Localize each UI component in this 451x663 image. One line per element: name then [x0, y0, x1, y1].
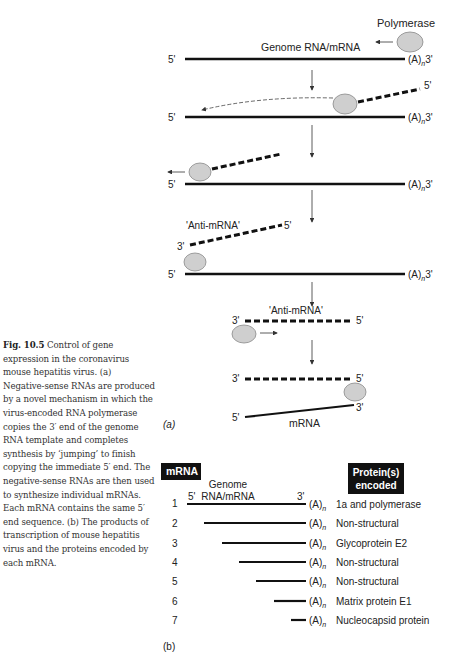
mrna-strand — [245, 405, 354, 417]
diagram: Polymerase Genome RNA/mRNA 5' (A)n3' 5' … — [0, 0, 451, 663]
five-prime-label: 5' — [168, 54, 176, 65]
mrna-header: mRNA — [166, 465, 199, 477]
five-prime-label: 5' — [356, 315, 364, 326]
protein-label: Matrix protein E1 — [336, 596, 412, 607]
mrna-row-7: 7 (A)n Nucleocapsid protein — [172, 615, 429, 628]
row-number: 7 — [172, 615, 178, 626]
polymerase-icon — [232, 325, 256, 343]
panel-b-label: (b) — [163, 641, 175, 652]
anti-mrna-label: 'Anti-mRNA' — [186, 220, 240, 231]
polymerase-icon — [184, 253, 206, 271]
jump-arrow-icon — [202, 98, 333, 110]
genome-label-line1: Genome — [209, 479, 248, 490]
protein-label: Non-structural — [336, 557, 399, 568]
three-prime-label: 3' — [297, 491, 305, 502]
polya-label: (A)n — [309, 499, 326, 512]
step-4-anti-mrna: 'Anti-mRNA' 5' 3' 5' (A)n3' — [168, 220, 433, 282]
step-3-jump: 5' (A)n3' — [168, 154, 433, 192]
polya-label: (A)n3' — [408, 112, 433, 125]
three-prime-label: 3' — [177, 241, 185, 252]
nascent-strand — [212, 154, 281, 169]
mrna-row-4: 4 (A)n Non-structural — [172, 557, 399, 570]
polya-label: (A)n — [309, 538, 326, 551]
row-number: 5 — [172, 576, 178, 587]
three-prime-label: 3' — [232, 315, 240, 326]
polya-label: (A)n — [309, 596, 326, 609]
polymerase-icon — [333, 94, 357, 114]
row-number: 6 — [172, 596, 178, 607]
five-prime-label: 5' — [168, 112, 176, 123]
three-prime-label: 3' — [356, 402, 364, 413]
genome-label: Genome RNA/mRNA — [261, 41, 360, 53]
mrna-row-6: 6 (A)n Matrix protein E1 — [172, 596, 412, 609]
five-prime-label: 5' — [424, 80, 432, 91]
polya-label: (A)n3' — [408, 269, 433, 282]
five-prime-label: 5' — [232, 412, 240, 423]
nascent-strand — [358, 89, 420, 102]
polya-label: (A)n3' — [408, 179, 433, 192]
protein-label: Nucleocapsid protein — [336, 615, 429, 626]
panel-a-label: (a) — [163, 419, 175, 430]
polymerase-label: Polymerase — [377, 17, 435, 29]
protein-label: 1a and polymerase — [336, 499, 421, 510]
row-number: 1 — [172, 498, 178, 509]
step-2-initiation: 5' 5' (A)n3' — [168, 80, 433, 125]
mrna-row-5: 5 (A)n Non-structural — [172, 576, 399, 589]
polya-label: (A)n — [309, 557, 326, 570]
step-1-genome: Polymerase Genome RNA/mRNA 5' (A)n3' — [168, 17, 435, 67]
three-prime-label: 3' — [232, 373, 240, 384]
five-prime-label: 5' — [356, 373, 364, 384]
five-prime-label: 5' — [168, 179, 176, 190]
protein-header-line1: Protein(s) — [353, 467, 400, 478]
step-6-mrna: 3' 5' 5' 3' mRNA — [232, 373, 366, 429]
five-prime-label: 5' — [168, 269, 176, 280]
row-number: 4 — [172, 557, 178, 568]
polya-label: (A)n — [309, 576, 326, 589]
protein-label: Glycoprotein E2 — [336, 538, 408, 549]
genome-label-line2: RNA/mRNA — [201, 491, 255, 502]
protein-header-line2: encoded — [355, 480, 396, 491]
polymerase-icon — [189, 163, 211, 181]
polya-label: (A)n3' — [408, 54, 433, 67]
polymerase-icon — [344, 383, 366, 401]
row-number: 2 — [172, 518, 178, 529]
mrna-row-3: 3 (A)n Glycoprotein E2 — [172, 538, 408, 551]
row-number: 3 — [172, 538, 178, 549]
polymerase-icon — [397, 32, 423, 52]
protein-label: Non-structural — [336, 576, 399, 587]
polya-label: (A)n — [309, 518, 326, 531]
protein-label: Non-structural — [336, 518, 399, 529]
five-prime-label: 5' — [284, 220, 292, 231]
anti-mrna-label: 'Anti-mRNA' — [269, 305, 323, 316]
mrna-row-2: 2 (A)n Non-structural — [172, 518, 399, 531]
mrna-label: mRNA — [289, 417, 320, 429]
polya-label: (A)n — [309, 615, 326, 628]
step-5-transcription: 'Anti-mRNA' 3' 5' — [232, 305, 364, 343]
five-prime-label: 5' — [188, 491, 196, 502]
panel-b: mRNA Protein(s) encoded Genome RNA/mRNA … — [161, 463, 429, 652]
